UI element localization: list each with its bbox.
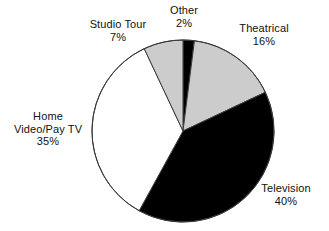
pie-label-other-name: Other xyxy=(139,4,229,17)
pie-label-studio-tour-value: 7% xyxy=(70,31,166,44)
pie-label-television: Television 40% xyxy=(243,182,329,207)
pie-label-television-name: Television xyxy=(243,182,329,195)
pie-label-home-video-pay-tv-line2: Video/Pay TV xyxy=(2,123,94,136)
pie-label-studio-tour-name: Studio Tour xyxy=(70,18,166,31)
pie-label-studio-tour: Studio Tour 7% xyxy=(70,18,166,43)
pie-label-theatrical: Theatrical 16% xyxy=(216,22,312,47)
pie-label-home-video-pay-tv-line1: Home xyxy=(2,110,94,123)
pie-label-television-value: 40% xyxy=(243,195,329,208)
pie-label-home-video-pay-tv-value: 35% xyxy=(2,135,94,148)
pie-label-theatrical-value: 16% xyxy=(216,35,312,48)
pie-label-theatrical-name: Theatrical xyxy=(216,22,312,35)
pie-chart: Other 2% Theatrical 16% Television 40% H… xyxy=(0,0,329,231)
pie-label-home-video-pay-tv: Home Video/Pay TV 35% xyxy=(2,110,94,148)
